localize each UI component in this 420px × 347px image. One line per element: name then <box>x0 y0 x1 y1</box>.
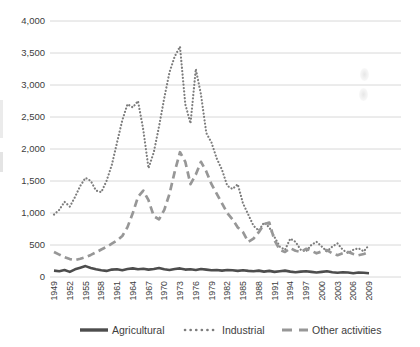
x-tick-label: 2003 <box>333 281 343 301</box>
chart-figure: 05001,0001,5002,0002,5003,0003,5004,0001… <box>0 0 420 347</box>
x-tick-label: 1988 <box>254 281 264 301</box>
series-line-other-activities <box>54 152 369 260</box>
x-tick-label: 2009 <box>364 281 374 301</box>
legend-label: Industrial <box>222 324 265 336</box>
x-tick-label: 2000 <box>317 281 327 301</box>
x-tick-label: 1961 <box>112 281 122 301</box>
y-tick-label: 500 <box>29 239 45 250</box>
y-tick-label: 1,500 <box>21 175 45 186</box>
x-tick-label: 1949 <box>49 281 59 301</box>
x-tick-label: 1955 <box>81 281 91 301</box>
y-tick-label: 1,000 <box>21 207 45 218</box>
x-tick-label: 1985 <box>238 281 248 301</box>
x-tick-label: 1958 <box>96 281 106 301</box>
x-tick-label: 1964 <box>128 281 138 301</box>
legend-label: Other activities <box>312 324 381 336</box>
x-tick-label: 1979 <box>207 281 217 301</box>
x-tick-label: 2006 <box>348 281 358 301</box>
series-line-industrial <box>54 47 369 253</box>
cropped-left-edge-text-remnant <box>0 100 3 138</box>
x-tick-label: 1997 <box>301 281 311 301</box>
y-tick-label: 0 <box>40 271 45 282</box>
faint-smudge-mark <box>359 88 368 101</box>
y-tick-label: 3,500 <box>21 47 45 58</box>
x-tick-label: 1982 <box>222 281 232 301</box>
line-chart: 05001,0001,5002,0002,5003,0003,5004,0001… <box>0 0 420 347</box>
y-tick-label: 4,000 <box>21 15 45 26</box>
x-tick-label: 1973 <box>175 281 185 301</box>
x-tick-label: 1967 <box>144 281 154 301</box>
cropped-left-edge-text-remnant <box>0 152 3 172</box>
faint-smudge-mark <box>360 68 369 81</box>
legend-label: Agricultural <box>112 324 165 336</box>
x-tick-label: 1952 <box>65 281 75 301</box>
y-tick-label: 2,500 <box>21 111 45 122</box>
series-line-agricultural <box>54 266 369 273</box>
x-tick-label: 1991 <box>270 281 280 301</box>
x-tick-label: 1976 <box>191 281 201 301</box>
y-tick-label: 3,000 <box>21 79 45 90</box>
x-tick-label: 1970 <box>159 281 169 301</box>
y-tick-label: 2,000 <box>21 143 45 154</box>
x-tick-label: 1994 <box>285 281 295 301</box>
